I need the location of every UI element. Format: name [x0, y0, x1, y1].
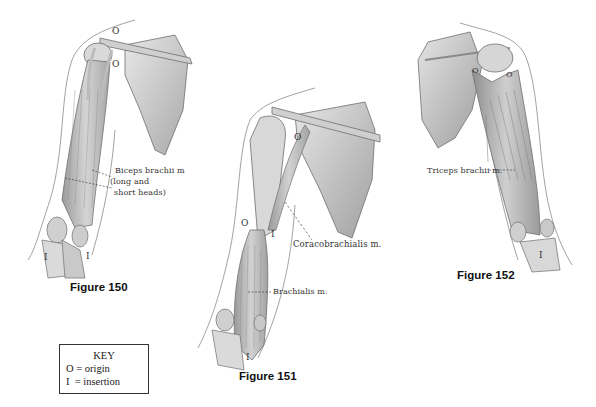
legend-meaning: = insertion [72, 376, 120, 387]
legend-symbol: O [66, 363, 74, 374]
brachialis-label: Brachialis m. [273, 286, 328, 297]
legend-row-origin: O = origin [66, 362, 142, 375]
figure-151-caption: Figure 151 [239, 370, 297, 382]
figure-150-illustration [0, 0, 200, 300]
insertion-marker: I [246, 352, 250, 362]
figure-150-caption: Figure 150 [70, 281, 128, 293]
figure-152-illustration [400, 20, 596, 300]
insertion-marker: I [539, 250, 543, 260]
insertion-marker: I [44, 252, 48, 262]
anatomy-plate: O O I I Biceps brachii m (long and short… [0, 0, 596, 407]
triceps-brachii-label: Triceps brachii m. [427, 165, 503, 176]
origin-marker: O [112, 26, 119, 36]
legend-title: KEY [66, 349, 142, 362]
figure-152-caption: Figure 152 [457, 269, 515, 281]
biceps-brachii-label-line3: short heads) [114, 187, 166, 198]
legend-meaning: = origin [76, 363, 110, 374]
biceps-brachii-label: Biceps brachii m [115, 165, 185, 176]
origin-marker: O [294, 132, 301, 142]
legend-symbol: I [66, 376, 70, 387]
insertion-marker: I [271, 229, 275, 239]
figure-152: O O I Triceps brachii m. Figure 152 [400, 20, 596, 300]
figure-151: O O I I Coracobrachialis m. Brachialis m… [180, 80, 400, 400]
origin-marker: O [112, 59, 119, 69]
legend-key: KEY O = origin I = insertion [59, 344, 149, 394]
biceps-brachii-label-line2: (long and [110, 176, 149, 187]
coracobrachialis-label: Coracobrachialis m. [293, 239, 381, 250]
origin-marker: O [472, 66, 479, 76]
legend-row-insertion: I = insertion [66, 375, 142, 388]
insertion-marker: I [86, 251, 90, 261]
origin-marker: O [241, 218, 248, 228]
origin-marker: O [506, 70, 513, 80]
figure-150: O O I I Biceps brachii m (long and short… [0, 0, 200, 300]
